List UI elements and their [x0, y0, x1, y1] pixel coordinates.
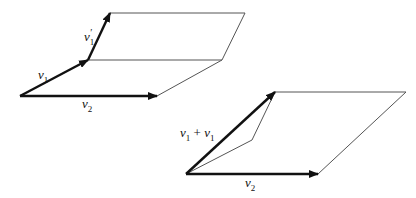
- upper-parallelogram-edge: [88, 13, 245, 60]
- label-sum: v1 + v1: [180, 126, 214, 143]
- right-figure: [186, 92, 406, 174]
- label-sub: 1: [210, 133, 215, 143]
- label-v1-prime: v1′: [84, 28, 92, 47]
- label-v1: v1: [38, 68, 48, 85]
- label-sub: 1: [90, 37, 95, 47]
- label-sub: 1: [44, 75, 49, 85]
- label-v2-left: v2: [82, 97, 92, 114]
- lower-parallelogram-edge: [157, 60, 222, 96]
- label-operator: +: [190, 125, 204, 140]
- label-sub: 2: [251, 183, 256, 193]
- sum-parallelogram-edge: [275, 92, 406, 174]
- label-v2-right: v2: [245, 176, 255, 193]
- v1-arrow: [20, 60, 88, 96]
- label-sub: 2: [88, 104, 93, 114]
- vector-diagram: [0, 0, 416, 198]
- left-figure: [20, 13, 245, 96]
